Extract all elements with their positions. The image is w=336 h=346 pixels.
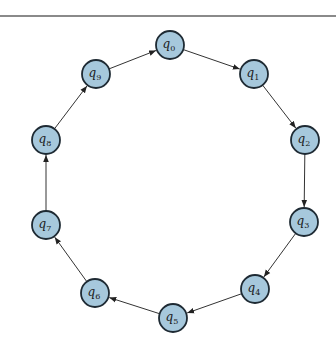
node-q5: q5 [159,304,187,332]
edge-q5-q6 [109,298,159,314]
edge-q4-q5 [187,294,242,313]
cycle-graph-diagram: q0q1q2q3q4q5q6q7q8q9 [0,0,336,346]
edge-q3-q4 [264,233,296,277]
node-q8: q8 [32,126,60,154]
edge-q9-q0 [109,50,156,68]
node-q6: q6 [81,279,109,307]
node-q2: q2 [291,126,319,154]
edge-q2-q3 [304,154,305,207]
node-q7: q7 [32,211,60,239]
node-q0: q0 [156,31,184,59]
nodes-layer: q0q1q2q3q4q5q6q7q8q9 [32,31,319,332]
edge-q1-q2 [263,85,296,128]
edge-q6-q7 [55,237,87,281]
node-q9: q9 [82,60,110,88]
node-q1: q1 [240,60,268,88]
edge-q0-q1 [183,50,240,70]
node-q4: q4 [241,275,269,303]
node-q3: q3 [290,208,318,236]
edges-layer [46,50,305,314]
edge-q8-q9 [54,86,86,129]
